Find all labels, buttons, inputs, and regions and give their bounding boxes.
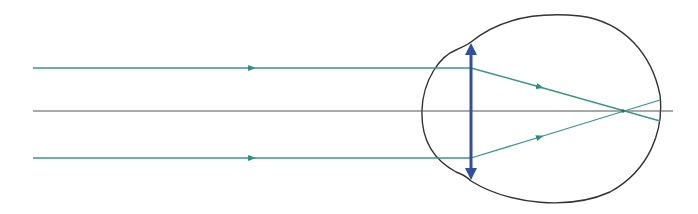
focal-point	[621, 109, 625, 113]
lower-ray	[33, 100, 660, 158]
eye-lens-diagram	[0, 0, 698, 214]
upper-ray	[33, 68, 660, 121]
eye-outline	[422, 15, 661, 203]
